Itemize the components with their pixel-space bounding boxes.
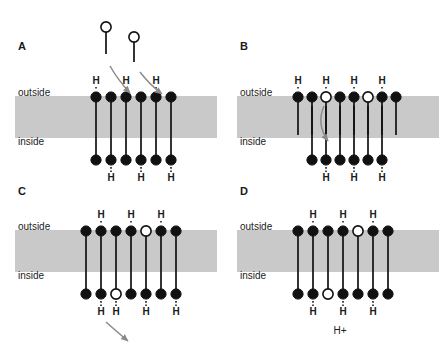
lipid-head-inner-filled bbox=[363, 155, 373, 165]
panel-letter-d: D bbox=[240, 185, 248, 197]
h-atom-label: H bbox=[369, 209, 376, 220]
lipid-head-inner-filled bbox=[136, 155, 146, 165]
h-atom-label: H bbox=[97, 209, 104, 220]
lipid-head-inner-filled bbox=[96, 289, 106, 299]
h-atom-label: H bbox=[157, 209, 164, 220]
membrane-band bbox=[237, 230, 439, 272]
lipid-head-outer-filled bbox=[391, 92, 401, 102]
h-atom-label: H bbox=[137, 172, 144, 183]
h-atom-label: H bbox=[350, 75, 357, 86]
lipid-head-outer-filled bbox=[126, 226, 136, 236]
lipid-head-outer-filled bbox=[171, 226, 181, 236]
h-atom-label: H bbox=[152, 75, 159, 86]
lipid-head-outer-filled bbox=[106, 92, 116, 102]
h-atom-label: H bbox=[339, 306, 346, 317]
h-atom-label: H bbox=[350, 172, 357, 183]
lipid-head-outer-filled bbox=[323, 226, 333, 236]
lipid-head-inner-filled bbox=[353, 289, 363, 299]
lipid-head-inner-filled bbox=[349, 155, 359, 165]
h-atom-label: H bbox=[294, 75, 301, 86]
lipid-head-outer-filled bbox=[308, 226, 318, 236]
lipid-head-inner-filled bbox=[377, 155, 387, 165]
label-inside: inside bbox=[18, 136, 45, 147]
h-atom-label: H bbox=[142, 306, 149, 317]
h-atom-label: H bbox=[378, 75, 385, 86]
membrane-band bbox=[237, 96, 439, 138]
lipid-head-inner-filled bbox=[383, 289, 393, 299]
lipid-head-inner-filled bbox=[166, 155, 176, 165]
lipid-head-inner-filled bbox=[171, 289, 181, 299]
lipid-head-outer-filled bbox=[349, 92, 359, 102]
lipid-head-outer-filled bbox=[136, 92, 146, 102]
h-atom-label: H bbox=[309, 209, 316, 220]
lipid-head-inner-open bbox=[323, 289, 333, 299]
lipid-head-outer-filled bbox=[81, 226, 91, 236]
label-outside: outside bbox=[18, 221, 51, 232]
lipid-head-outer-filled bbox=[368, 226, 378, 236]
lipid-head-outer-filled bbox=[96, 226, 106, 236]
lipid-head-inner-filled bbox=[308, 289, 318, 299]
h-atom-label: H bbox=[167, 172, 174, 183]
lipid-head-inner-open bbox=[111, 289, 121, 299]
lipid-head-outer-filled bbox=[91, 92, 101, 102]
lipid-head-inner-filled bbox=[121, 155, 131, 165]
h-atom-label: H bbox=[92, 75, 99, 86]
membrane-proton-transport-diagram: AoutsideinsideHHHHHHBoutsideinsideHHHHHH… bbox=[0, 0, 445, 347]
free-lipid-head-open bbox=[129, 32, 139, 42]
lipid-head-outer-open bbox=[141, 226, 151, 236]
lipid-head-inner-filled bbox=[335, 155, 345, 165]
label-outside: outside bbox=[18, 87, 51, 98]
lipid-head-inner-filled bbox=[156, 289, 166, 299]
label-inside: inside bbox=[240, 270, 267, 281]
lipid-head-inner-filled bbox=[91, 155, 101, 165]
lipid-head-inner-filled bbox=[106, 155, 116, 165]
lipid-head-inner-filled bbox=[368, 289, 378, 299]
lipid-head-outer-filled bbox=[293, 92, 303, 102]
lipid-head-inner-filled bbox=[338, 289, 348, 299]
lipid-head-outer-filled bbox=[166, 92, 176, 102]
label-outside: outside bbox=[240, 221, 273, 232]
lipid-head-outer-filled bbox=[156, 226, 166, 236]
h-atom-label: H bbox=[322, 75, 329, 86]
lipid-head-outer-filled bbox=[383, 226, 393, 236]
lipid-head-outer-open bbox=[321, 92, 331, 102]
lipid-head-outer-filled bbox=[151, 92, 161, 102]
lipid-head-outer-open bbox=[353, 226, 363, 236]
lipid-head-inner-filled bbox=[293, 289, 303, 299]
label-outside: outside bbox=[240, 87, 273, 98]
lipid-head-inner-filled bbox=[141, 289, 151, 299]
lipid-head-inner-filled bbox=[81, 289, 91, 299]
h-atom-label: H bbox=[339, 209, 346, 220]
label-inside: inside bbox=[18, 270, 45, 281]
lipid-head-outer-open bbox=[363, 92, 373, 102]
h-atom-label: H bbox=[97, 306, 104, 317]
label-inside: inside bbox=[240, 136, 267, 147]
h-atom-label: H bbox=[112, 306, 119, 317]
h-atom-label: H bbox=[369, 306, 376, 317]
lipid-head-outer-filled bbox=[377, 92, 387, 102]
h-atom-label: H bbox=[309, 306, 316, 317]
h-atom-label: H bbox=[127, 209, 134, 220]
hplus-label: H+ bbox=[333, 325, 346, 336]
h-atom-label: H bbox=[378, 172, 385, 183]
free-lipid-head-open bbox=[101, 22, 111, 32]
lipid-head-outer-filled bbox=[307, 92, 317, 102]
panel-letter-c: C bbox=[18, 185, 26, 197]
lipid-head-inner-filled bbox=[307, 155, 317, 165]
lipid-head-inner-filled bbox=[126, 289, 136, 299]
lipid-head-outer-filled bbox=[335, 92, 345, 102]
lipid-head-outer-filled bbox=[338, 226, 348, 236]
panel-letter-a: A bbox=[18, 40, 26, 52]
h-atom-label: H bbox=[172, 306, 179, 317]
h-atom-label: H bbox=[107, 172, 114, 183]
lipid-head-outer-filled bbox=[111, 226, 121, 236]
lipid-head-inner-filled bbox=[321, 155, 331, 165]
membrane-band bbox=[15, 96, 217, 138]
lipid-head-outer-filled bbox=[293, 226, 303, 236]
lipid-head-outer-filled bbox=[121, 92, 131, 102]
lipid-head-inner-filled bbox=[151, 155, 161, 165]
h-atom-label: H bbox=[322, 172, 329, 183]
panel-letter-b: B bbox=[240, 40, 248, 52]
